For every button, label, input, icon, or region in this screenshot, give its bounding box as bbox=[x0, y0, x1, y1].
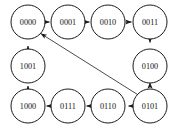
node-1001[interactable]: 1001 bbox=[11, 49, 45, 83]
node-0000[interactable]: 0000 bbox=[11, 5, 45, 39]
diagram-canvas: 0000 0001 0010 0011 0100 0101 bbox=[0, 0, 176, 128]
node-0011[interactable]: 0011 bbox=[133, 5, 167, 39]
node-0001[interactable]: 0001 bbox=[51, 5, 85, 39]
node-0101-label: 0101 bbox=[142, 102, 158, 111]
node-0111-label: 0111 bbox=[60, 102, 76, 111]
node-1000-label: 1000 bbox=[20, 102, 36, 111]
node-0100-label: 0100 bbox=[142, 62, 158, 71]
edge-0101-to-0000-diagonal bbox=[41, 34, 138, 95]
node-0100[interactable]: 0100 bbox=[133, 49, 167, 83]
node-1000[interactable]: 1000 bbox=[11, 89, 45, 123]
node-0010-label: 0010 bbox=[100, 18, 116, 27]
node-0001-label: 0001 bbox=[60, 18, 76, 27]
node-0011-label: 0011 bbox=[142, 18, 158, 27]
edge-group bbox=[28, 22, 150, 106]
node-0110[interactable]: 0110 bbox=[91, 89, 125, 123]
node-0010[interactable]: 0010 bbox=[91, 5, 125, 39]
node-0111[interactable]: 0111 bbox=[51, 89, 85, 123]
node-1001-label: 1001 bbox=[20, 62, 36, 71]
node-0000-label: 0000 bbox=[20, 18, 36, 27]
state-transition-graph: 0000 0001 0010 0011 0100 0101 bbox=[0, 0, 176, 128]
node-0110-label: 0110 bbox=[100, 102, 116, 111]
node-0101[interactable]: 0101 bbox=[133, 89, 167, 123]
